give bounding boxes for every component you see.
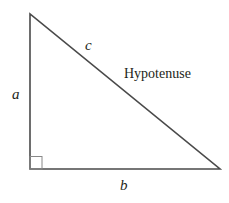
triangle-outline [30, 14, 220, 169]
side-b-label: b [120, 178, 128, 193]
side-a-label: a [12, 87, 20, 102]
hypotenuse-label: Hypotenuse [124, 67, 191, 81]
right-angle-marker [30, 157, 42, 170]
right-triangle [0, 0, 229, 203]
side-c-label: c [85, 38, 92, 53]
